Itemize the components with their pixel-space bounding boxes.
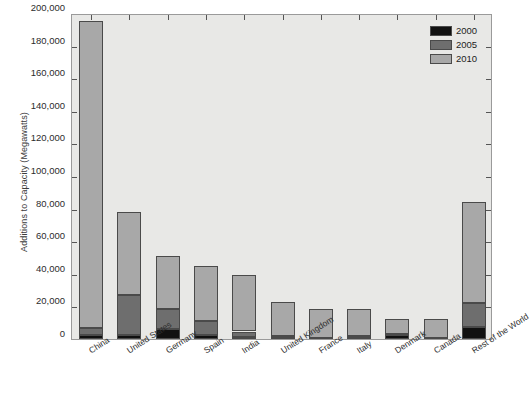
- y-tick-mark: [72, 112, 77, 113]
- legend-swatch-2005: [430, 40, 452, 50]
- y-axis-tick-label: 180,000: [7, 35, 65, 46]
- y-axis-tick-label: 80,000: [7, 198, 65, 209]
- bar-segment-2010[interactable]: [385, 319, 409, 334]
- y-tick-mark-right: [486, 275, 491, 276]
- bar-segment-2000[interactable]: [462, 327, 486, 339]
- bar-segment-2010[interactable]: [194, 266, 218, 321]
- legend-label: 2010: [456, 54, 477, 64]
- y-tick-mark: [72, 307, 77, 308]
- bar-segment-2005[interactable]: [232, 332, 256, 338]
- y-tick-mark-right: [486, 112, 491, 113]
- plot-area: [71, 14, 492, 340]
- bar-france[interactable]: [309, 14, 333, 339]
- bar-italy[interactable]: [347, 14, 371, 339]
- y-tick-mark-right: [486, 242, 491, 243]
- bar-germany[interactable]: [156, 14, 180, 339]
- y-tick-mark: [72, 14, 77, 15]
- y-tick-mark-right: [486, 14, 491, 15]
- legend-item-2005[interactable]: 2005: [430, 38, 498, 51]
- bar-united-kingdom[interactable]: [271, 14, 295, 339]
- bar-denmark[interactable]: [385, 14, 409, 339]
- bar-segment-2005[interactable]: [462, 303, 486, 327]
- chart-legend: 200020052010: [430, 24, 498, 66]
- y-axis-tick-label: 140,000: [7, 100, 65, 111]
- y-tick-mark-right: [486, 177, 491, 178]
- y-axis-tick-label: 20,000: [7, 295, 65, 306]
- y-tick-mark: [72, 177, 77, 178]
- bar-segment-2010[interactable]: [79, 21, 103, 328]
- y-axis-tick-label: 160,000: [7, 67, 65, 78]
- bar-segment-2005[interactable]: [117, 295, 141, 335]
- legend-swatch-2000: [430, 26, 452, 36]
- y-axis-tick-label: 200,000: [7, 2, 65, 13]
- plot-inner: [72, 15, 491, 339]
- y-tick-mark-right: [486, 210, 491, 211]
- bar-segment-2005[interactable]: [194, 321, 218, 336]
- bar-china[interactable]: [79, 14, 103, 339]
- y-axis-tick-label: 0: [7, 328, 65, 339]
- legend-label: 2000: [456, 26, 477, 36]
- y-axis-tick-label: 120,000: [7, 132, 65, 143]
- y-tick-mark: [72, 242, 77, 243]
- bar-segment-2010[interactable]: [347, 309, 371, 336]
- bar-segment-2010[interactable]: [156, 256, 180, 309]
- y-tick-mark-right: [486, 79, 491, 80]
- bar-spain[interactable]: [194, 14, 218, 339]
- bar-segment-2010[interactable]: [117, 212, 141, 295]
- y-axis-tick-label: 60,000: [7, 230, 65, 241]
- y-tick-mark: [72, 47, 77, 48]
- y-tick-mark-right: [486, 307, 491, 308]
- y-tick-mark: [72, 144, 77, 145]
- y-axis-tick-label: 40,000: [7, 263, 65, 274]
- legend-label: 2005: [456, 40, 477, 50]
- bar-segment-2010[interactable]: [232, 275, 256, 331]
- legend-item-2010[interactable]: 2010: [430, 52, 498, 65]
- legend-item-2000[interactable]: 2000: [430, 24, 498, 37]
- bar-united-states[interactable]: [117, 14, 141, 339]
- bar-segment-2005[interactable]: [79, 328, 103, 335]
- x-axis-label-italy: Italy: [355, 339, 374, 356]
- legend-swatch-2010: [430, 54, 452, 64]
- bar-india[interactable]: [232, 14, 256, 339]
- y-tick-mark: [72, 79, 77, 80]
- x-axis-tick-labels: ChinaUnited StatesGermanySpainIndiaUnite…: [0, 341, 510, 407]
- y-tick-mark: [72, 210, 77, 211]
- bar-segment-2010[interactable]: [424, 319, 448, 338]
- bar-segment-2010[interactable]: [462, 202, 486, 303]
- bar-segment-2005[interactable]: [385, 334, 409, 336]
- y-axis-tick-label: 100,000: [7, 165, 65, 176]
- bar-segment-2010[interactable]: [271, 302, 295, 337]
- y-tick-mark-right: [486, 144, 491, 145]
- y-tick-mark: [72, 275, 77, 276]
